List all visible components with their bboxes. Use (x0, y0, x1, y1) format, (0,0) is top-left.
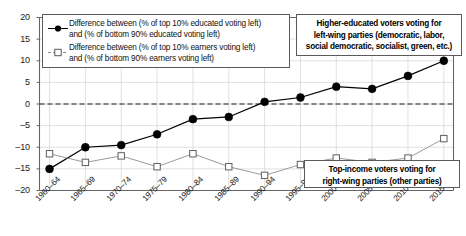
y-tick-label: 0 (4, 100, 30, 109)
legend-label-educated: Difference between (% of top 10% educate… (69, 19, 261, 40)
open-square-marker-icon (47, 44, 69, 55)
y-tick-label: 10 (4, 56, 30, 65)
annotation-higher-educated-left-wing: Higher-educated voters voting for left-w… (296, 14, 462, 56)
y-tick-label: 5 (4, 78, 30, 87)
series-lines (50, 61, 444, 176)
legend-item-educated: Difference between (% of top 10% educate… (47, 19, 286, 40)
y-tick-label: –15 (4, 164, 30, 173)
chart-legend: Difference between (% of top 10% educate… (42, 14, 290, 68)
chart-container: 20151050–5–10–15–20 1960–641965–691970–7… (0, 0, 466, 236)
y-tick-label: –20 (4, 186, 30, 195)
legend-item-earners: Difference between (% of top 10% earners… (47, 43, 286, 64)
filled-circle-marker-icon (47, 20, 69, 31)
annotation-top-income-right-wing: Top-income voters voting for right-wing … (304, 160, 460, 188)
y-tick-label: –5 (4, 121, 30, 130)
legend-label-earners: Difference between (% of top 10% earners… (69, 43, 255, 64)
y-tick-label: –10 (4, 143, 30, 152)
y-tick-label: 15 (4, 35, 30, 44)
y-tick-label: 20 (4, 13, 30, 22)
